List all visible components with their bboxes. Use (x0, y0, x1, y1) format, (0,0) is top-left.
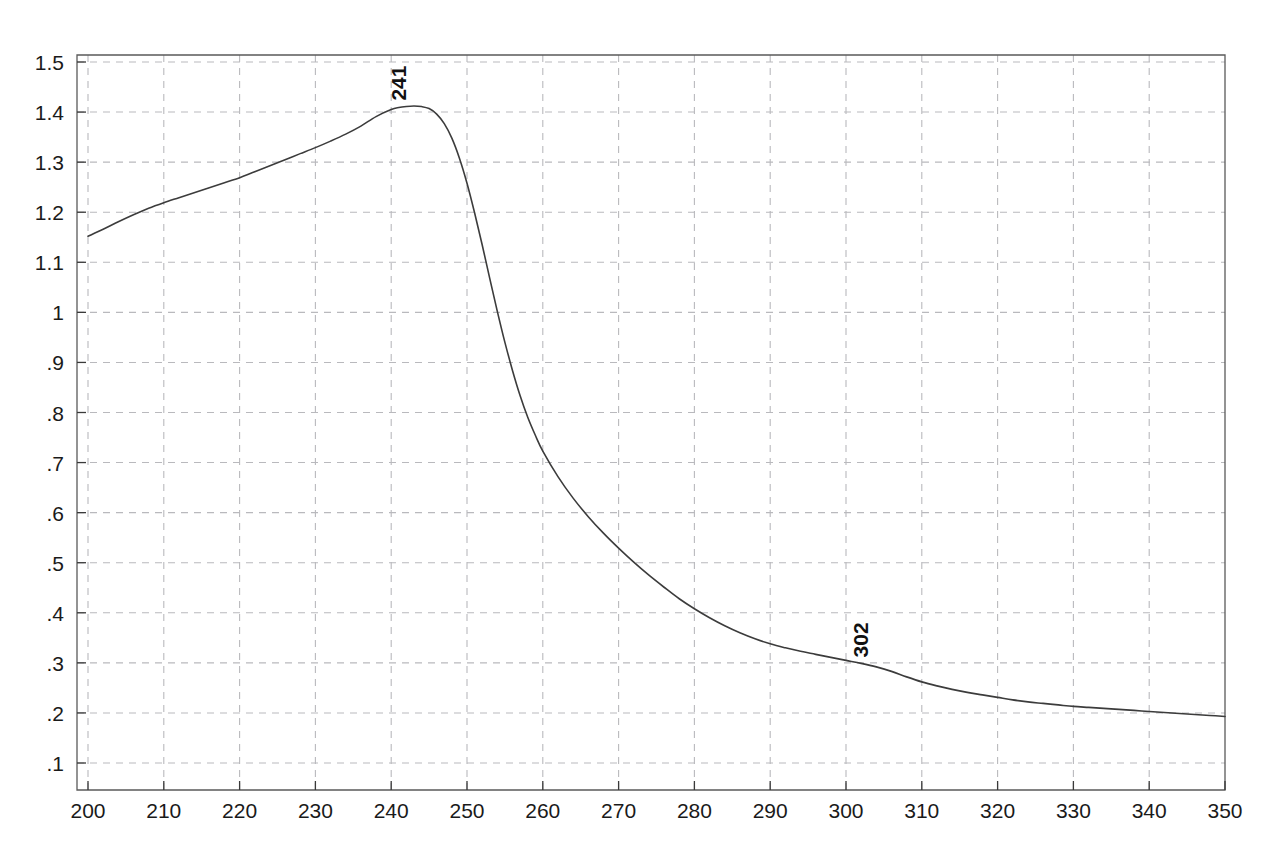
x-tick-label: 250 (449, 799, 484, 822)
y-tick-label: .9 (46, 351, 64, 374)
x-tick-label: 230 (298, 799, 333, 822)
y-tick-label: 1.3 (35, 151, 64, 174)
y-tick-label: .7 (46, 452, 64, 475)
y-tick-label: 1.5 (35, 51, 64, 74)
x-tick-label: 310 (904, 799, 939, 822)
peak-label-302: 302 (849, 622, 872, 657)
x-tick-label: 320 (980, 799, 1015, 822)
y-tick-label: 1.1 (35, 251, 64, 274)
y-tick-label: .1 (46, 752, 64, 775)
y-tick-label: 1.4 (35, 101, 65, 124)
y-tick-label: .2 (46, 702, 64, 725)
figure-background (0, 0, 1288, 857)
y-tick-label: 1.2 (35, 201, 64, 224)
x-tick-label: 220 (222, 799, 257, 822)
y-tick-label: .3 (46, 652, 64, 675)
x-tick-label: 280 (677, 799, 712, 822)
y-tick-label: .5 (46, 552, 64, 575)
y-tick-label: 1 (52, 301, 64, 324)
x-tick-label: 330 (1056, 799, 1091, 822)
peak-label-241: 241 (387, 65, 410, 100)
x-tick-label: 340 (1132, 799, 1167, 822)
x-tick-label: 300 (828, 799, 863, 822)
x-tick-label: 260 (525, 799, 560, 822)
x-tick-label: 290 (753, 799, 788, 822)
x-tick-label: 200 (70, 799, 105, 822)
x-tick-label: 350 (1207, 799, 1242, 822)
y-tick-label: .6 (46, 502, 64, 525)
uv-vis-spectrum-figure: 2002102202302402502602702802903003103203… (0, 0, 1288, 857)
y-tick-label: .8 (46, 402, 64, 425)
spectrum-chart-canvas: 2002102202302402502602702802903003103203… (0, 0, 1288, 857)
y-tick-label: .4 (46, 602, 64, 625)
x-tick-label: 240 (374, 799, 409, 822)
x-tick-label: 210 (146, 799, 181, 822)
x-tick-label: 270 (601, 799, 636, 822)
